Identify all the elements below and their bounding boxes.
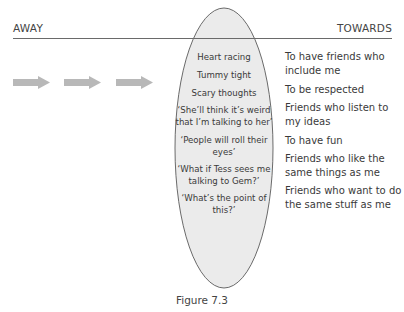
towards-item: Friends who want to do the same stuff as… xyxy=(285,184,403,212)
away-arrow-2-icon xyxy=(64,76,101,89)
away-arrow-3-icon xyxy=(116,76,153,89)
figure-caption: Figure 7.3 xyxy=(0,294,404,306)
towards-item: To be respected xyxy=(285,83,403,97)
towards-item: Friends who like the same things as me xyxy=(285,152,403,180)
ellipse-item: Heart racing xyxy=(176,52,272,64)
ellipse-item: ‘People will roll their eyes’ xyxy=(176,135,272,158)
ellipse-item: ‘She’ll think it’s weird that I’m talkin… xyxy=(170,105,278,128)
towards-item: To have fun xyxy=(285,134,403,148)
towards-item: Friends who listen to my ideas xyxy=(285,101,403,129)
ellipse-item: Tummy tight xyxy=(176,70,272,82)
towards-item: To have friends who include me xyxy=(285,50,403,78)
away-arrow-1-icon xyxy=(13,76,50,89)
ellipse-item: ‘What’s the point of this?’ xyxy=(176,193,272,216)
ellipse-item: Scary thoughts xyxy=(176,88,272,100)
ellipse-item: ‘What if Tess sees me talking to Gem?’ xyxy=(172,164,276,187)
away-towards-axis-line xyxy=(13,38,392,39)
